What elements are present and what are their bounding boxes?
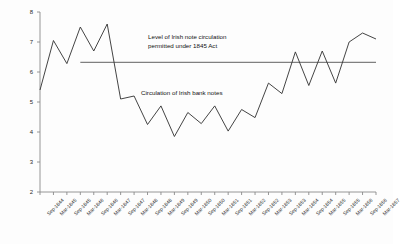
y-axis-tick-label: 6	[19, 69, 33, 75]
y-axis-tick-label: 5	[19, 99, 33, 105]
limit-annotation-line-2: permitted under 1845 Act	[148, 42, 226, 51]
y-axis-tick-label: 7	[19, 39, 33, 45]
series-annotation-text: Circulation of Irish bank notes	[141, 89, 223, 98]
limit-annotation-line-1: Level of Irish note circulation	[148, 33, 226, 42]
y-axis-tick-label: 8	[19, 9, 33, 15]
y-axis-tick-label: 3	[19, 159, 33, 165]
y-axis-tick-label: 2	[19, 189, 33, 195]
limit-annotation: Level of Irish note circulation permitte…	[148, 33, 226, 50]
series-annotation: Circulation of Irish bank notes	[141, 89, 223, 98]
y-axis-tick-label: 4	[19, 129, 33, 135]
